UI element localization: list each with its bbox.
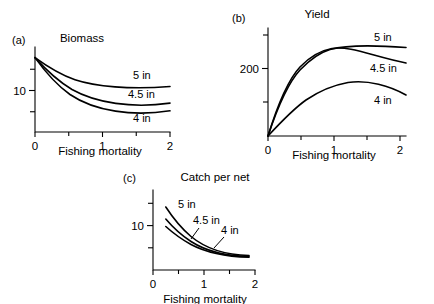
panel-c-axes bbox=[153, 190, 255, 270]
panel-b-xlabel: Fishing mortality bbox=[292, 149, 376, 161]
panel-c-leader-4in bbox=[214, 237, 224, 248]
figure-container: (a) Biomass 10 0 1 2 5 in bbox=[0, 0, 434, 304]
panel-c-catch-per-net: (c) Catch per net 10 0 1 2 bbox=[95, 166, 320, 304]
panel-a-ytick-label-10: 10 bbox=[13, 85, 26, 97]
panel-a-biomass: (a) Biomass 10 0 1 2 5 in bbox=[0, 22, 210, 157]
panel-c-xtick-label-0: 0 bbox=[150, 278, 156, 290]
panel-b-xtick-label-0: 0 bbox=[265, 144, 271, 156]
panel-b-curve-4in bbox=[268, 82, 406, 136]
panel-b-ytick-label-200: 200 bbox=[240, 63, 259, 75]
panel-a-series-label-4-5in: 4.5 in bbox=[128, 88, 155, 100]
panel-a-xtick-label-0: 0 bbox=[32, 140, 38, 152]
panel-c-xlabel: Fishing mortality bbox=[163, 293, 247, 304]
panel-a-xtick-label-2: 2 bbox=[167, 140, 173, 152]
panel-b-curve-5in bbox=[268, 46, 406, 136]
panel-b-series-label-4in: 4 in bbox=[374, 94, 392, 106]
panel-a-title: Biomass bbox=[60, 32, 104, 44]
panel-c-ytick-label-10: 10 bbox=[131, 220, 144, 232]
panel-a-series-label-4in: 4 in bbox=[133, 112, 151, 124]
panel-a-letter: (a) bbox=[12, 34, 25, 46]
panel-a-xlabel: Fishing mortality bbox=[58, 145, 142, 157]
panel-b-title: Yield bbox=[304, 8, 329, 20]
panel-c-series-label-4-5in: 4.5 in bbox=[193, 214, 220, 226]
panel-b-series-label-4-5in: 4.5 in bbox=[370, 62, 397, 74]
panel-c-series-label-5in: 5 in bbox=[178, 198, 196, 210]
panel-b-letter: (b) bbox=[232, 12, 245, 24]
panel-c-xtick-label-1: 1 bbox=[201, 278, 207, 290]
panel-a-series-label-5in: 5 in bbox=[133, 69, 151, 81]
panel-c-letter: (c) bbox=[123, 172, 136, 184]
panel-c-series-label-4in: 4 in bbox=[221, 224, 239, 236]
panel-c-leader-4-5in bbox=[191, 228, 199, 239]
panel-b-yield: (b) Yield 200 0 1 2 5 in 4.5 in bbox=[222, 0, 434, 160]
panel-c-title: Catch per net bbox=[180, 171, 250, 183]
panel-c-xtick-label-2: 2 bbox=[252, 278, 258, 290]
panel-b-xtick-label-2: 2 bbox=[397, 144, 403, 156]
panel-b-series-label-5in: 5 in bbox=[374, 31, 392, 43]
